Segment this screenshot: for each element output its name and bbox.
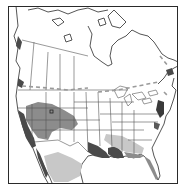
range-map	[8, 6, 178, 184]
north-america-map	[8, 6, 178, 184]
map-border	[9, 7, 178, 184]
